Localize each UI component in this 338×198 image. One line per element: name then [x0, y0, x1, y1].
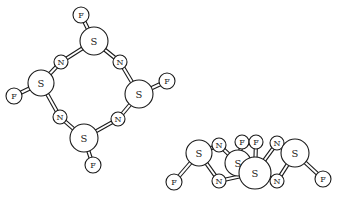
atom-label: S — [38, 78, 45, 89]
atom-label: S — [292, 148, 299, 159]
atom-label: N — [274, 139, 281, 148]
atom-s: S — [186, 140, 212, 166]
atom-label: F — [78, 11, 84, 20]
atom-label: N — [57, 113, 64, 122]
atom-s: S — [281, 139, 309, 167]
atom-s: S — [125, 80, 153, 108]
atom-n: N — [212, 138, 226, 152]
atom-label: N — [274, 177, 281, 186]
atom-label: N — [58, 58, 65, 67]
atom-label: F — [239, 138, 245, 147]
atom-s: S — [28, 70, 54, 96]
atom-label: F — [90, 161, 96, 170]
atom-f: F — [166, 174, 182, 190]
atom-f: F — [235, 135, 249, 149]
molecule-side-view: SFSNNFFNNSSF — [166, 135, 331, 190]
atom-label: F — [164, 77, 170, 86]
atom-n: N — [270, 174, 284, 188]
molecule-top-view: FSNNSFSFNNSF — [6, 7, 175, 173]
atom-f: F — [85, 157, 101, 173]
atom-n: N — [111, 112, 125, 126]
atom-label: S — [81, 133, 88, 144]
atom-label: F — [320, 175, 326, 184]
atom-s: S — [70, 124, 98, 152]
molecule-diagram: FSNNSFSFNNSF SFSNNFFNNSSF — [0, 0, 338, 198]
atom-label: N — [115, 115, 122, 124]
atom-n: N — [53, 110, 67, 124]
atom-label: F — [11, 92, 17, 101]
atom-n: N — [113, 55, 127, 69]
atom-n: N — [54, 55, 68, 69]
atom-label: N — [216, 177, 223, 186]
atom-label: F — [253, 138, 259, 147]
atom-label: N — [216, 141, 223, 150]
atom-f: F — [73, 7, 89, 23]
atom-label: F — [171, 178, 177, 187]
atom-s: S — [239, 157, 271, 189]
atom-label: S — [136, 89, 143, 100]
atom-label: S — [196, 148, 203, 159]
atom-label: S — [252, 168, 259, 179]
atom-f: F — [159, 73, 175, 89]
atom-label: N — [117, 58, 124, 67]
atom-label: S — [91, 36, 98, 47]
atom-n: N — [212, 174, 226, 188]
atom-s: S — [80, 27, 108, 55]
atom-f: F — [6, 88, 22, 104]
atom-f: F — [315, 171, 331, 187]
atom-f: F — [249, 135, 263, 149]
